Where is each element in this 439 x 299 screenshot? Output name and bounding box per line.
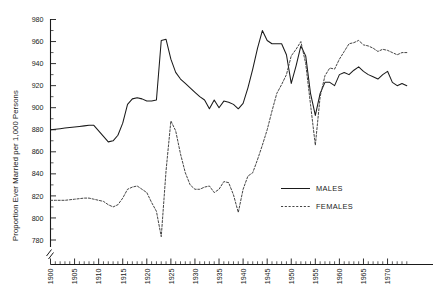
y-axis-tick-label: 840	[32, 170, 44, 178]
series-line-females	[51, 40, 407, 236]
y-axis-tick-label: 980	[32, 16, 44, 24]
y-axis-title: Proportion Ever Married per 1,000 Person…	[11, 90, 20, 241]
x-axis-tick-label: 1900	[47, 268, 55, 284]
y-axis-tick-label: 800	[32, 215, 44, 223]
legend-label-females: FEMALES	[316, 202, 353, 211]
x-axis-tick-label: 1920	[144, 268, 152, 284]
series-line-males	[51, 31, 407, 142]
x-axis-tick-label: 1910	[95, 268, 103, 284]
x-axis-tick-label: 1940	[240, 268, 248, 284]
y-axis-tick-label: 820	[32, 193, 44, 201]
y-axis-tick-label: 940	[32, 60, 44, 68]
y-axis-tick-label: 900	[32, 104, 44, 112]
chart-container: 780800820840860880900920940960980 190019…	[0, 0, 439, 299]
x-axis-tick-label: 1915	[120, 268, 128, 284]
x-axis: 1900190519101915192019251930193519401945…	[47, 259, 433, 285]
legend: MALES FEMALES	[281, 184, 353, 211]
x-axis-tick-label: 1955	[312, 268, 320, 284]
y-axis-tick-label: 880	[32, 126, 44, 134]
x-axis-tick-label: 1950	[288, 268, 296, 284]
y-axis-tick-label: 920	[32, 82, 44, 90]
axis-break-icon	[47, 250, 54, 260]
x-axis-tick-label: 1945	[264, 268, 272, 284]
x-axis-tick-labels: 1900190519101915192019251930193519401945…	[47, 268, 392, 284]
x-axis-tick-label: 1970	[384, 268, 392, 284]
x-axis-tick-label: 1930	[192, 268, 200, 284]
y-axis-tick-label: 960	[32, 38, 44, 46]
legend-label-males: MALES	[316, 184, 343, 193]
y-axis-tick-labels: 780800820840860880900920940960980	[32, 16, 44, 245]
x-axis-tick-label: 1960	[336, 268, 344, 284]
y-axis-tick-label: 860	[32, 148, 44, 156]
x-axis-tick-label: 1925	[168, 268, 176, 284]
x-axis-major-ticks	[51, 259, 388, 265]
x-axis-tick-label: 1935	[216, 268, 224, 284]
x-axis-tick-label: 1905	[71, 268, 79, 284]
line-chart: 780800820840860880900920940960980 190019…	[0, 0, 439, 299]
y-axis: 780800820840860880900920940960980	[32, 16, 56, 259]
y-axis-tick-label: 780	[32, 237, 44, 245]
x-axis-tick-label: 1965	[360, 268, 368, 284]
